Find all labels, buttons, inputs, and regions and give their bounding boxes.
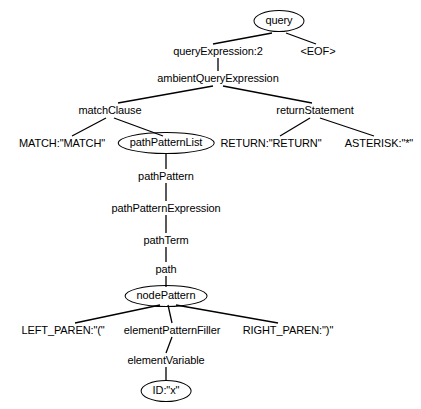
tree-node-pathPattern[interactable]: pathPattern (137, 170, 195, 183)
tree-edge-ambientQueryExpression-to-matchClause (118, 86, 213, 103)
tree-edge-nodePattern-to-rightParen (176, 305, 278, 323)
tree-node-idToken[interactable]: ID:"x" (141, 380, 192, 402)
tree-edge-nodePattern-to-elementPatternFiller (168, 305, 172, 323)
tree-edge-query-to-queryExpression (213, 33, 272, 44)
tree-node-leftParen[interactable]: LEFT_PAREN:"(" (20, 324, 105, 337)
tree-node-matchToken[interactable]: MATCH:"MATCH" (18, 137, 106, 150)
tree-node-pathPatternList[interactable]: pathPatternList (118, 132, 215, 154)
tree-node-returnToken[interactable]: RETURN:"RETURN" (219, 137, 322, 150)
tree-node-rightParen[interactable]: RIGHT_PAREN:")" (242, 324, 334, 337)
tree-node-elementPatternFiller[interactable]: elementPatternFiller (123, 324, 221, 337)
tree-node-queryExpression[interactable]: queryExpression:2 (172, 45, 263, 58)
tree-node-path[interactable]: path (154, 263, 177, 276)
tree-node-matchClause[interactable]: matchClause (77, 104, 142, 117)
tree-node-query[interactable]: query (253, 10, 304, 32)
tree-node-eof[interactable]: <EOF> (300, 45, 337, 58)
tree-edge-elementPatternFiller-to-elementVariable (166, 337, 172, 353)
tree-node-returnStatement[interactable]: returnStatement (275, 104, 354, 117)
tree-node-asteriskToken[interactable]: ASTERISK:"*" (344, 137, 414, 150)
tree-node-elementVariable[interactable]: elementVariable (126, 354, 205, 367)
tree-edge-query-to-eof (286, 33, 316, 44)
tree-node-ambientQueryExpression[interactable]: ambientQueryExpression (156, 72, 279, 85)
tree-edge-matchClause-to-matchToken (72, 118, 106, 136)
tree-edge-returnStatement-to-returnToken (280, 118, 310, 136)
tree-node-nodePattern[interactable]: nodePattern (125, 285, 208, 307)
parse-tree-diagram: queryqueryExpression:2<EOF>ambientQueryE… (0, 0, 421, 409)
tree-node-pathTerm[interactable]: pathTerm (142, 234, 189, 247)
tree-edge-returnStatement-to-asteriskToken (320, 118, 374, 136)
tree-edge-ambientQueryExpression-to-returnStatement (223, 86, 312, 103)
tree-node-pathPatternExpression[interactable]: pathPatternExpression (110, 202, 221, 215)
tree-edge-nodePattern-to-leftParen (75, 305, 160, 323)
